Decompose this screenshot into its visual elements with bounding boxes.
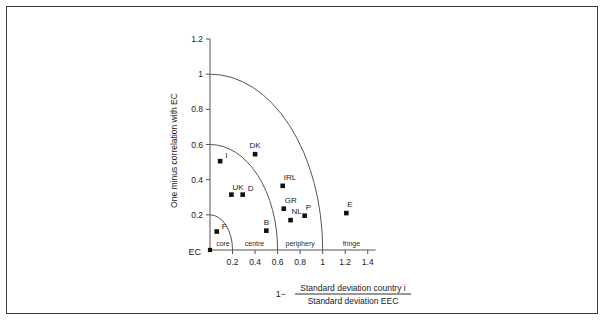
data-point-label-UK: UK xyxy=(232,183,244,192)
data-point-B[interactable] xyxy=(264,228,269,233)
y-tick-label: 0.6 xyxy=(191,140,203,150)
x-tick-label: 0.2 xyxy=(227,257,239,267)
data-point-label-DK: DK xyxy=(250,141,262,150)
x-tick-label: 1.2 xyxy=(339,257,351,267)
x-tick-label: 0.6 xyxy=(272,257,284,267)
zone-label-periphery: periphery xyxy=(286,240,316,248)
y-tick-label: 0.4 xyxy=(191,175,203,185)
data-point-F[interactable] xyxy=(214,229,219,234)
data-point-I[interactable] xyxy=(218,159,223,164)
data-point-UK[interactable] xyxy=(229,192,234,197)
x-axis-denominator: Standard deviation EEC xyxy=(308,296,399,306)
data-point-NL[interactable] xyxy=(288,218,293,223)
data-point-label-F: F xyxy=(222,222,227,231)
zone-label-fringe: fringe xyxy=(343,240,361,248)
x-tick-label: 1 xyxy=(320,257,325,267)
zone-label-centre: centre xyxy=(245,240,265,247)
y-tick-label: 0.2 xyxy=(191,210,203,220)
x-axis-prefix: 1− xyxy=(276,289,286,299)
data-point-label-I: I xyxy=(225,151,227,160)
data-point-label-NL: NL xyxy=(292,207,303,216)
data-point-DK[interactable] xyxy=(253,152,258,157)
y-tick-label: 1 xyxy=(198,69,203,79)
x-axis-numerator: Standard deviation country i xyxy=(300,283,405,293)
x-tick-label: 1.4 xyxy=(362,257,374,267)
data-point-label-B: B xyxy=(264,218,269,227)
data-point-GR[interactable] xyxy=(281,206,286,211)
y-tick-label: 0.8 xyxy=(191,104,203,114)
data-point-label-E: E xyxy=(347,200,352,209)
data-point-label-P: P xyxy=(306,203,311,212)
origin-label-ec: EC xyxy=(188,247,201,257)
data-point-E[interactable] xyxy=(344,211,349,216)
data-point-label-GR: GR xyxy=(285,196,297,205)
data-point-D[interactable] xyxy=(240,192,245,197)
data-point-IRL[interactable] xyxy=(280,184,285,189)
data-point-EC[interactable] xyxy=(208,248,212,252)
x-tick-label: 0.4 xyxy=(249,257,261,267)
x-tick-label: 0.8 xyxy=(294,257,306,267)
scatter-chart: 0.20.40.60.811.20.20.40.60.811.21.4ECcor… xyxy=(7,7,599,315)
y-tick-label: 1.2 xyxy=(191,34,203,44)
y-axis-title: One minus correlation with EC xyxy=(169,93,179,208)
data-point-label-IRL: IRL xyxy=(284,173,297,182)
figure-frame: 0.20.40.60.811.20.20.40.60.811.21.4ECcor… xyxy=(6,6,598,314)
data-point-label-D: D xyxy=(248,184,254,193)
data-point-P[interactable] xyxy=(302,213,307,218)
zone-label-core: core xyxy=(216,240,230,247)
